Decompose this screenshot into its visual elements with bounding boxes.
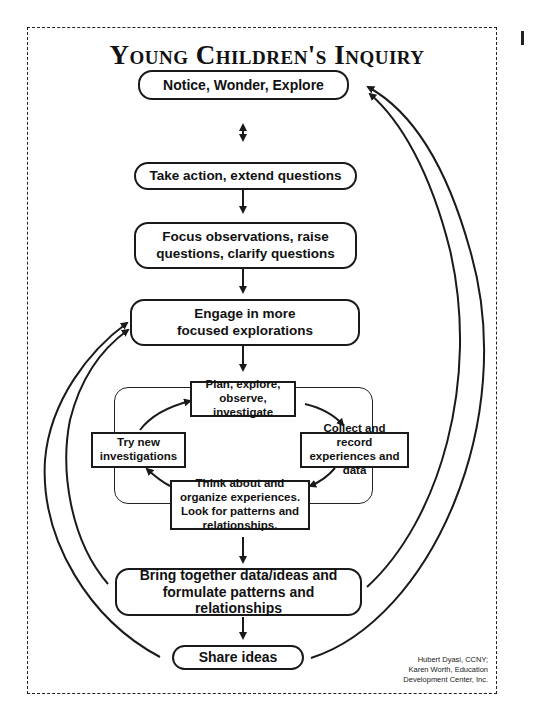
node-notice-wonder-explore: Notice, Wonder, Explore bbox=[138, 70, 349, 100]
node-think-organize: Think about and organize experiences. Lo… bbox=[170, 480, 310, 530]
return-arrow-bring-to-notice bbox=[367, 94, 460, 587]
credit-line-2: Karen Worth, Education bbox=[403, 665, 488, 675]
credit-line-1: Hubert Dyasi, CCNY; bbox=[403, 655, 488, 665]
credit-line-3: Development Center, Inc. bbox=[403, 675, 488, 685]
node-plan-explore: Plan, explore, observe, investigate bbox=[190, 381, 296, 417]
node-focus-observations: Focus observations, raise questions, cla… bbox=[134, 222, 357, 269]
node-bring-together: Bring together data/ideas and formulate … bbox=[115, 568, 362, 616]
node-take-action: Take action, extend questions bbox=[134, 162, 357, 190]
node-try-new-investigations: Try new investigations bbox=[91, 432, 186, 468]
node-engage-explorations: Engage in more focused explorations bbox=[130, 299, 360, 346]
node-collect-record: Collect and record experiences and data bbox=[300, 432, 409, 468]
credit-attribution: Hubert Dyasi, CCNY; Karen Worth, Educati… bbox=[403, 655, 488, 685]
node-share-ideas: Share ideas bbox=[172, 645, 304, 670]
